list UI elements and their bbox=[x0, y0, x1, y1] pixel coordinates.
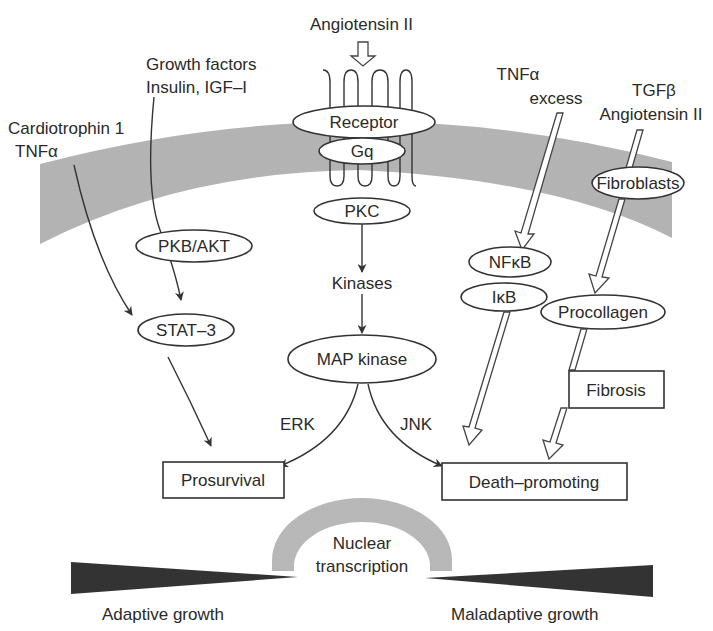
stat3-label: STAT–3 bbox=[156, 321, 216, 340]
input-cardiotrophin-line2: TNFα bbox=[15, 142, 58, 161]
ikb-label: IκB bbox=[492, 288, 517, 307]
procollagen-label: Procollagen bbox=[558, 303, 648, 322]
fibrosis-label: Fibrosis bbox=[586, 381, 646, 400]
input-tgf-line2: Angiotensin II bbox=[599, 105, 702, 124]
nuclear-transcription-line1: Nuclear bbox=[333, 534, 392, 553]
input-cardiotrophin-line1: Cardiotrophin 1 bbox=[8, 119, 124, 138]
input-tnf-excess-line2: excess bbox=[530, 89, 583, 108]
procollagen-to-fibrosis-connector bbox=[569, 329, 587, 370]
adaptive-growth-wedge bbox=[71, 562, 298, 594]
input-tnf-excess-line1: TNFα bbox=[497, 65, 540, 84]
map-kinase-label: MAP kinase bbox=[317, 350, 407, 369]
fibrosis-to-death-hollow-arrow-icon bbox=[543, 408, 567, 459]
fibroblasts-label: Fibroblasts bbox=[596, 174, 679, 193]
angiotensin-hollow-arrow-icon bbox=[351, 42, 375, 66]
signaling-pathway-diagram: Cardiotrophin 1 TNFα Growth factors Insu… bbox=[0, 0, 713, 631]
maladaptive-growth-wedge bbox=[425, 565, 653, 597]
jnk-label: JNK bbox=[400, 415, 433, 434]
prosurvival-label: Prosurvival bbox=[181, 471, 265, 490]
ikb-to-death-hollow-arrow-icon bbox=[463, 312, 510, 445]
adaptive-growth-label: Adaptive growth bbox=[102, 605, 224, 624]
pkc-label: PKC bbox=[345, 202, 380, 221]
input-angiotensin-label: Angiotensin II bbox=[310, 15, 413, 34]
kinases-label: Kinases bbox=[332, 274, 392, 293]
gq-label: Gq bbox=[351, 142, 374, 161]
maladaptive-growth-label: Maladaptive growth bbox=[451, 605, 598, 624]
input-tgf-line1: TGFβ bbox=[632, 81, 676, 100]
pkb-akt-label: PKB/AKT bbox=[158, 237, 230, 256]
erk-label: ERK bbox=[280, 415, 316, 434]
death-promoting-label: Death–promoting bbox=[469, 473, 599, 492]
fibroblasts-to-procollagen-hollow-arrow-icon bbox=[589, 199, 625, 293]
nfkb-label: NFκB bbox=[489, 253, 532, 272]
input-growth-factors-line2: Insulin, IGF–I bbox=[146, 78, 247, 97]
receptor-label: Receptor bbox=[330, 113, 399, 132]
input-growth-factors-line1: Growth factors bbox=[146, 55, 257, 74]
nuclear-transcription-line2: transcription bbox=[316, 557, 409, 576]
stat3-to-prosurvival-arrow bbox=[168, 357, 211, 446]
